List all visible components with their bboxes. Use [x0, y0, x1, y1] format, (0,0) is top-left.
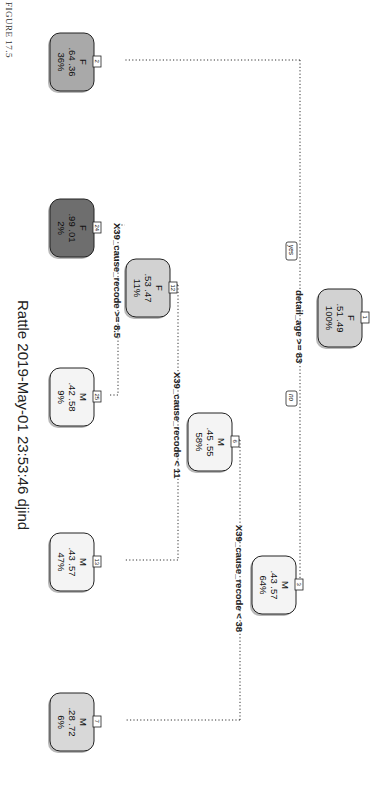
- node-probs: .99 .01: [67, 213, 78, 242]
- tree-node-3: 3 M .43 .57 64%: [250, 556, 303, 616]
- split-label-node-3: X39_cause_recode < 38: [234, 525, 245, 632]
- node-class: F: [346, 315, 357, 321]
- node-pct: 2%: [56, 221, 67, 235]
- tree-node-12: 12 F .53 .47 11%: [124, 259, 177, 319]
- node-class: M: [78, 393, 89, 401]
- node-id: 12: [170, 285, 176, 292]
- node-probs: .64 .36: [67, 47, 78, 76]
- node-pct: 64%: [258, 575, 269, 595]
- tree-node-7: 7 M .28 .72 6%: [48, 693, 101, 753]
- node-class: M: [280, 581, 291, 589]
- node-class: M: [78, 718, 89, 726]
- svg-text:no: no: [288, 394, 295, 402]
- svg-text:yes: yes: [287, 244, 295, 256]
- node-class: F: [78, 59, 89, 65]
- node-pct: 36%: [56, 52, 67, 72]
- node-id: 24: [94, 225, 100, 232]
- split-label-node-1: detail_age >= 83: [294, 290, 305, 363]
- node-pct: 58%: [194, 432, 205, 452]
- rattle-footer: Rattle 2019-May-01 23:53:46 djind: [15, 300, 32, 530]
- tree-node-25: 25 M .42 .58 9%: [48, 368, 101, 428]
- node-probs: .28 .72: [67, 707, 78, 736]
- split-label-node-6: X39_cause_recode < 11: [172, 372, 183, 479]
- node-pct: 6%: [56, 715, 67, 729]
- node-id: 13: [94, 559, 100, 566]
- node-pct: 100%: [324, 306, 335, 331]
- node-class: F: [154, 285, 165, 291]
- node-probs: .42 .58: [67, 382, 78, 411]
- split-label-node-12: X39_cause_recode >= 8.5: [112, 223, 123, 339]
- yes-badge: yes: [286, 242, 297, 260]
- node-id: 25: [94, 394, 100, 401]
- node-probs: .51 .49: [335, 303, 346, 332]
- connectors: [108, 60, 300, 720]
- node-probs: .53 .47: [143, 273, 154, 302]
- node-class: F: [78, 225, 89, 231]
- node-class: M: [78, 558, 89, 566]
- node-probs: .43 .57: [67, 547, 78, 576]
- tree-node-1: 1 F .51 .49 100%: [316, 289, 369, 349]
- node-pct: 9%: [56, 390, 67, 404]
- tree-node-6: 6 M .45 .55 58%: [186, 413, 239, 473]
- node-probs: .43 .57: [269, 570, 280, 599]
- node-pct: 11%: [132, 279, 143, 298]
- node-pct: 47%: [56, 552, 67, 572]
- decision-tree-diagram: detail_age >= 83 yes no X39_cause_recode…: [0, 0, 372, 786]
- node-probs: .45 .55: [205, 427, 216, 456]
- node-class: M: [216, 438, 227, 446]
- no-badge: no: [286, 391, 297, 406]
- tree-node-2: 2 F .64 .36 36%: [48, 33, 101, 93]
- tree-node-24: 24 F .99 .01 2%: [48, 199, 101, 259]
- tree-node-13: 13 M .43 .57 47%: [48, 533, 101, 593]
